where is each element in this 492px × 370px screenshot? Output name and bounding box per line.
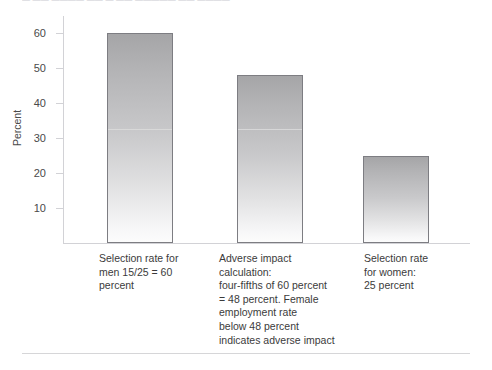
- y-axis-line: [63, 16, 64, 243]
- category-label-line: for women:: [364, 266, 428, 280]
- category-label-line: 25 percent: [364, 279, 428, 293]
- category-label-line: calculation:: [219, 266, 335, 280]
- footer-rule: [22, 353, 470, 354]
- bar-band-line: [108, 129, 172, 130]
- x-axis-line: [63, 243, 470, 244]
- category-label-line: Adverse impact: [219, 252, 335, 266]
- y-tick-30: 30: [56, 138, 63, 139]
- y-tick-60: 60: [56, 33, 63, 34]
- category-label-line: men 15/25 = 60: [99, 266, 178, 280]
- category-label-2: Adverse impactcalculation:four-fifths of…: [219, 252, 335, 347]
- plot-area: 102030405060: [63, 16, 470, 243]
- bar-3[interactable]: [363, 156, 429, 243]
- bar-2[interactable]: [237, 75, 303, 243]
- category-label-line: below 48 percent: [219, 320, 335, 334]
- y-axis-title: Percent: [11, 110, 23, 146]
- category-label-line: Selection rate for: [99, 252, 178, 266]
- category-label-3: Selection ratefor women:25 percent: [364, 252, 428, 293]
- category-label-line: percent: [99, 279, 178, 293]
- y-tick-40: 40: [56, 103, 63, 104]
- category-label-line: Selection rate: [364, 252, 428, 266]
- bar-1[interactable]: [107, 33, 173, 243]
- category-label-1: Selection rate formen 15/25 = 60percent: [99, 252, 178, 293]
- y-tick-10: 10: [56, 208, 63, 209]
- category-label-line: = 48 percent. Female: [219, 293, 335, 307]
- category-label-line: employment rate: [219, 306, 335, 320]
- y-tick-label: 40: [34, 97, 46, 109]
- y-tick-20: 20: [56, 173, 63, 174]
- y-tick-label: 50: [34, 62, 46, 74]
- category-label-line: four-fifths of 60 percent: [219, 279, 335, 293]
- bar-band-line: [238, 129, 302, 130]
- y-tick-label: 20: [34, 167, 46, 179]
- y-tick-50: 50: [56, 68, 63, 69]
- y-tick-label: 30: [34, 132, 46, 144]
- y-tick-label: 10: [34, 202, 46, 214]
- clipped-caption-text: — —— ———— —— — —— ————— —— ————: [22, 0, 442, 2]
- category-label-line: indicates adverse impact: [219, 334, 335, 348]
- figure: — —— ———— —— — —— ————— —— ———— Percent …: [0, 0, 492, 370]
- y-tick-label: 60: [34, 27, 46, 39]
